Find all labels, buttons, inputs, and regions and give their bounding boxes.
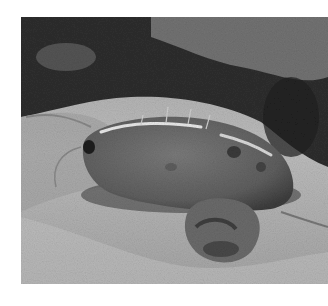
crustacean-photo: [21, 17, 328, 284]
photograph: [21, 17, 328, 284]
